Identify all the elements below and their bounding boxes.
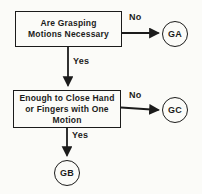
- edge-no-2-arrow: [121, 108, 159, 111]
- edge-label-no-2: No: [129, 90, 142, 100]
- decision-box-close-hand-line3: Motion: [52, 115, 81, 126]
- terminal-node-gb: GB: [54, 160, 80, 186]
- flowchart-canvas: Are Grasping Motions Necessary Enough to…: [0, 0, 202, 194]
- decision-box-close-hand-line1: Enough to Close Hand: [19, 93, 114, 104]
- decision-box-grasping-line2: Motions Necessary: [28, 29, 109, 40]
- decision-box-close-hand-line2: or Fingers with One: [25, 104, 109, 115]
- decision-box-grasping-motions: Are Grasping Motions Necessary: [15, 11, 122, 47]
- edge-label-yes-2: Yes: [72, 130, 88, 140]
- terminal-node-gb-label: GB: [60, 168, 74, 178]
- terminal-node-gc-label: GC: [168, 105, 182, 115]
- edge-label-yes-1: Yes: [73, 56, 89, 66]
- decision-box-grasping-line1: Are Grasping: [40, 18, 96, 29]
- terminal-node-ga: GA: [162, 21, 188, 47]
- terminal-node-ga-label: GA: [168, 29, 182, 39]
- decision-box-close-hand: Enough to Close Hand or Fingers with One…: [13, 90, 121, 128]
- edge-label-no-1: No: [129, 12, 142, 22]
- terminal-node-gc: GC: [162, 97, 188, 123]
